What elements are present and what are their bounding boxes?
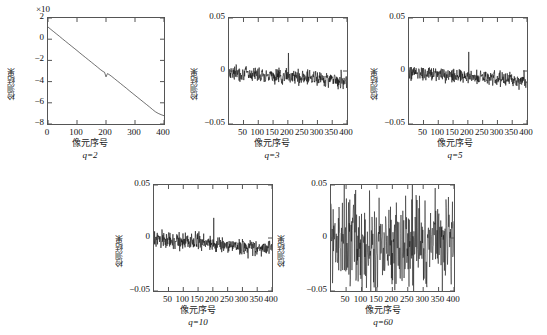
x-axis-label: 像元序号: [363, 136, 547, 149]
plot-area: [228, 17, 348, 125]
y-tick-label: 0.05: [287, 178, 327, 188]
data-line-q3: [229, 18, 347, 124]
data-line-q2: [48, 18, 164, 124]
plot-area: [408, 17, 528, 125]
y-axis-label: 检测结果: [6, 40, 17, 100]
y-tick-label: −0.05: [110, 284, 150, 294]
plot-area: [47, 17, 165, 125]
y-tick-label: 0: [365, 64, 405, 74]
x-axis-label: 像元序号: [183, 136, 361, 149]
x-axis-label: 像元序号: [108, 303, 288, 316]
y-axis-label: 检测结果: [276, 207, 287, 267]
x-axis-label: 像元序号: [0, 136, 180, 149]
y-tick-label: 0: [110, 231, 150, 241]
subplot-caption: q=5: [363, 150, 547, 160]
x-axis-label: 像元序号: [288, 303, 478, 316]
subplot-caption: q=60: [288, 317, 478, 327]
subplot-q2: ×10 检测结果 20−2−4−6−8 0100200300400 像元序号 q…: [0, 0, 180, 168]
y-tick-label: −0.05: [287, 284, 327, 294]
y-tick-label: 0.05: [185, 11, 225, 21]
subplot-q3: 检测结果 0.050−0.05 50100150200250300350400 …: [183, 0, 361, 168]
y-tick-label: −4: [4, 75, 44, 85]
plot-area: [330, 184, 455, 292]
subplot-caption: q=10: [108, 317, 288, 327]
y-tick-label: −6: [4, 96, 44, 106]
y-tick-label: 0: [287, 231, 327, 241]
y-tick-label: 0.05: [365, 11, 405, 21]
y-tick-label: −0.05: [185, 117, 225, 127]
subplot-q5: 检测结果 0.050−0.05 50100150200250300350400 …: [363, 0, 547, 168]
subplot-caption: q=3: [183, 150, 361, 160]
data-line-q5: [409, 18, 527, 124]
y-tick-label: −2: [4, 53, 44, 63]
plot-area: [153, 184, 273, 292]
data-line-q10: [154, 185, 272, 291]
y-tick-label: −8: [4, 117, 44, 127]
data-line-q60: [331, 185, 454, 291]
subplot-q60: 检测结果 0.050−0.05 50100150200250300350400 …: [288, 167, 478, 335]
y-tick-label: 0: [4, 32, 44, 42]
y-tick-label: −0.05: [365, 117, 405, 127]
y-tick-label: 2: [4, 11, 44, 21]
y-tick-label: 0: [185, 64, 225, 74]
subplot-q10: 检测结果 0.050−0.05 50100150200250300350400 …: [108, 167, 288, 335]
subplot-caption: q=2: [0, 150, 180, 160]
y-tick-label: 0.05: [110, 178, 150, 188]
